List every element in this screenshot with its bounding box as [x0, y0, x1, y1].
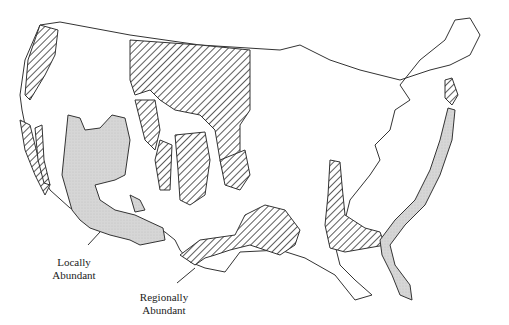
locally-abundant-label-line1: Locally: [44, 256, 104, 269]
locally-abundant-label-line2: Abundant: [44, 269, 104, 282]
regionally-abundant-label: Regionally Abundant: [124, 291, 204, 317]
regionally-abundant-label-line2: Abundant: [124, 304, 204, 317]
locally-abundant-label: Locally Abundant: [44, 256, 104, 282]
locally-abundant-pointer: [88, 232, 100, 245]
regionally-abundant-pointer: [177, 268, 195, 283]
regionally-abundant-label-line1: Regionally: [124, 291, 204, 304]
